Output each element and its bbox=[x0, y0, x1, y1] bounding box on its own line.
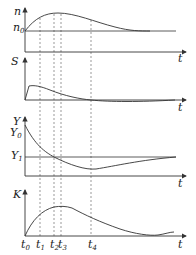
panel-y: Y Y0 Y1 t bbox=[10, 115, 186, 190]
panel-n: n n0 t bbox=[13, 5, 186, 65]
panel-s: S t bbox=[11, 55, 186, 114]
k-axis-label: K bbox=[12, 188, 22, 201]
t0-label: t0 bbox=[21, 238, 30, 252]
y-t-label: t bbox=[178, 177, 183, 190]
n0-label: n0 bbox=[13, 21, 25, 35]
n-t-label: t bbox=[178, 52, 183, 65]
t4-label: t4 bbox=[88, 238, 97, 252]
n-axis-label: n bbox=[14, 5, 21, 18]
y0-label: Y0 bbox=[10, 126, 22, 140]
k-t-label: t bbox=[178, 238, 183, 251]
t3-label: t3 bbox=[58, 238, 67, 252]
time-guide-lines bbox=[40, 14, 91, 236]
dynamics-diagram: n n0 t S t Y Y0 Y1 t K t t0 t1 t2 t3 t4 bbox=[0, 0, 196, 255]
time-tick-labels: t0 t1 t2 t3 t4 bbox=[21, 238, 97, 252]
y1-label: Y1 bbox=[11, 149, 23, 163]
s-t-label: t bbox=[178, 101, 183, 114]
s-axis-label: S bbox=[11, 55, 19, 68]
t1-label: t1 bbox=[36, 238, 45, 252]
